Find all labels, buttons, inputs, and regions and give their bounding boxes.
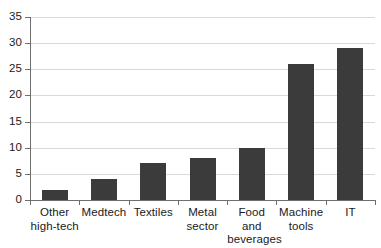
bar	[140, 163, 166, 200]
y-tick-label: 0	[0, 194, 22, 206]
x-tick-mark	[276, 200, 277, 205]
bar	[190, 158, 216, 200]
y-tick-label: 25	[0, 63, 22, 75]
x-tick-mark	[326, 200, 327, 205]
bar	[239, 148, 265, 200]
x-tick-label: IT	[326, 206, 375, 220]
bar-chart: 35302520151050 Other high-techMedtechTex…	[0, 0, 381, 248]
plot-area	[30, 17, 375, 200]
bar	[42, 190, 68, 200]
x-tick-label: Food and beverages	[227, 206, 276, 247]
bar	[288, 64, 314, 200]
y-tick-label: 30	[0, 37, 22, 49]
y-tick-label: 20	[0, 89, 22, 101]
x-tick-mark	[79, 200, 80, 205]
x-tick-mark	[178, 200, 179, 205]
bar	[91, 179, 117, 200]
y-tick-label: 5	[0, 168, 22, 180]
x-tick-label: Textiles	[129, 206, 178, 220]
x-tick-mark	[375, 200, 376, 205]
x-tick-label: Other high-tech	[30, 206, 79, 233]
x-axis-line	[30, 200, 375, 201]
x-tick-label: Medtech	[79, 206, 128, 220]
y-tick-label: 35	[0, 11, 22, 23]
x-tick-mark	[227, 200, 228, 205]
x-tick-mark	[30, 200, 31, 205]
x-tick-label: Metal sector	[178, 206, 227, 233]
y-tick-label: 15	[0, 116, 22, 128]
y-tick-label: 10	[0, 142, 22, 154]
x-tick-label: Machine tools	[276, 206, 325, 233]
x-tick-mark	[129, 200, 130, 205]
bar	[337, 48, 363, 200]
